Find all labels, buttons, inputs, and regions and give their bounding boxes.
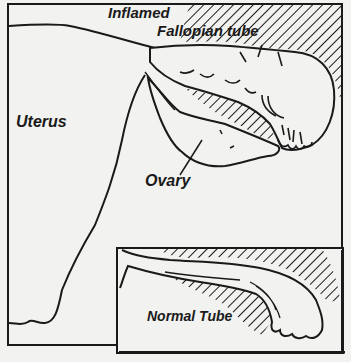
diagram-canvas: Inflamed Fallopian tube Uterus Ovary Nor… [0, 0, 351, 362]
label-ovary: Ovary [145, 173, 190, 189]
inset-panel [117, 248, 345, 354]
label-inflamed: Inflamed [108, 5, 170, 20]
label-fallopian-tube: Fallopian tube [157, 23, 259, 38]
label-uterus: Uterus [16, 114, 67, 130]
label-normal-tube: Normal Tube [147, 309, 232, 323]
